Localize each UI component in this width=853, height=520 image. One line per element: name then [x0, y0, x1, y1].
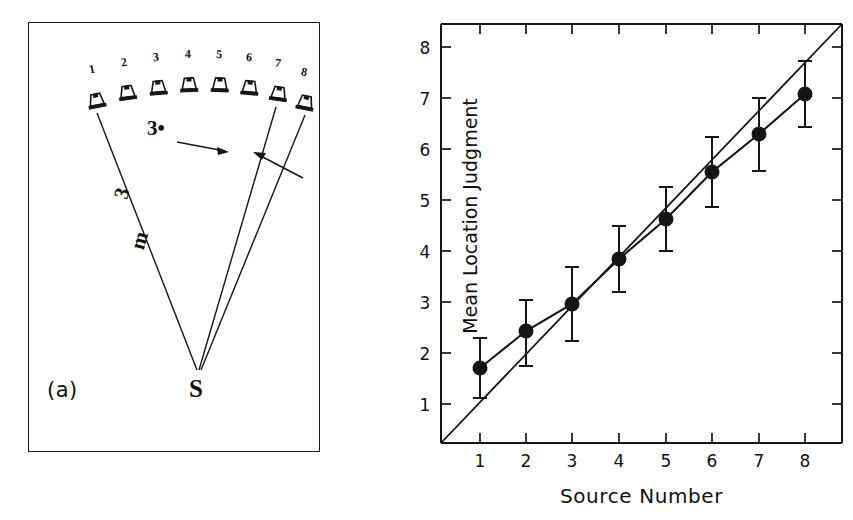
speaker-number-5: 5: [216, 47, 223, 62]
speaker-number-4: 4: [185, 47, 192, 62]
scatter-line-plot: [420, 0, 853, 520]
radius-line-source8: [201, 115, 305, 370]
speaker-7-icon: [269, 86, 288, 102]
speaker-8-icon: [296, 94, 315, 111]
y-tick-label-7: 7: [414, 89, 436, 109]
x-tick-label-5: 5: [655, 451, 677, 471]
x-tick-label-7: 7: [748, 451, 770, 471]
panel-b-chart: Mean Location Judgment: [420, 0, 853, 520]
speaker-5-icon: [211, 78, 228, 92]
angle-arrow-right-icon: [253, 152, 303, 178]
panel-a-diagram: 1 2 3 4 5 6 7 8 3• 3 m S (a): [28, 22, 320, 452]
error-bars: [473, 61, 812, 398]
speaker-glyphs: [87, 78, 315, 111]
data-point-2: [519, 324, 534, 339]
y-tick-label-1: 1: [414, 395, 436, 415]
speaker-4-icon: [180, 78, 197, 92]
y-axis-title: Mean Location Judgment: [459, 46, 481, 386]
listener-position-label: S: [189, 375, 203, 403]
speaker-2-icon: [118, 85, 137, 101]
data-point-4: [612, 252, 627, 267]
y-tick-label-3: 3: [414, 293, 436, 313]
data-point-7: [752, 127, 767, 142]
figure-container: 1 2 3 4 5 6 7 8 3• 3 m S (a) Mean Locati…: [0, 0, 853, 520]
data-point-markers: [473, 87, 813, 376]
data-point-8: [798, 87, 813, 102]
x-tick-label-4: 4: [608, 451, 630, 471]
y-tick-label-5: 5: [414, 191, 436, 211]
angle-arrow-left-icon: [177, 142, 229, 155]
y-tick-label-6: 6: [414, 140, 436, 160]
y-tick-label-4: 4: [414, 242, 436, 262]
x-tick-label-8: 8: [794, 451, 816, 471]
speaker-number-3: 3: [152, 50, 159, 65]
radius-line-source7: [199, 107, 276, 370]
x-axis-title: Source Number: [441, 484, 842, 508]
y-tick-label-2: 2: [414, 344, 436, 364]
x-tick-label-3: 3: [561, 451, 583, 471]
x-tick-label-1: 1: [469, 451, 491, 471]
speaker-3-icon: [149, 80, 167, 95]
speaker-1-icon: [87, 92, 106, 109]
data-point-6: [705, 165, 720, 180]
data-point-5: [659, 212, 674, 227]
panel-a-caption: (a): [47, 378, 78, 402]
y-tick-label-8: 8: [414, 38, 436, 58]
x-tick-label-6: 6: [701, 451, 723, 471]
speaker-6-icon: [241, 80, 259, 95]
x-tick-label-2: 2: [515, 451, 537, 471]
data-point-3: [565, 297, 580, 312]
identity-reference-line: [441, 24, 842, 443]
angle-annotation: 3•: [147, 116, 165, 141]
